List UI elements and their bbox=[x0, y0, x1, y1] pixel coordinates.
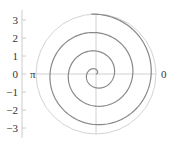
y-tick-label: 0 bbox=[13, 68, 19, 80]
angle-label-zero: 0 bbox=[161, 68, 167, 80]
angle-label-pi: π bbox=[30, 68, 36, 80]
spiral-curve bbox=[50, 14, 151, 124]
y-axis-ticks: 3210−1−2−3 bbox=[6, 14, 26, 134]
y-tick-label: −2 bbox=[6, 104, 18, 116]
y-tick-label: 3 bbox=[13, 14, 19, 26]
y-tick-label: −3 bbox=[6, 122, 18, 134]
y-tick-label: 2 bbox=[13, 32, 19, 44]
y-tick-label: −1 bbox=[6, 86, 18, 98]
polar-spiral-chart: 3210−1−2−3 π 0 bbox=[0, 0, 176, 147]
y-tick-label: 1 bbox=[13, 50, 19, 62]
